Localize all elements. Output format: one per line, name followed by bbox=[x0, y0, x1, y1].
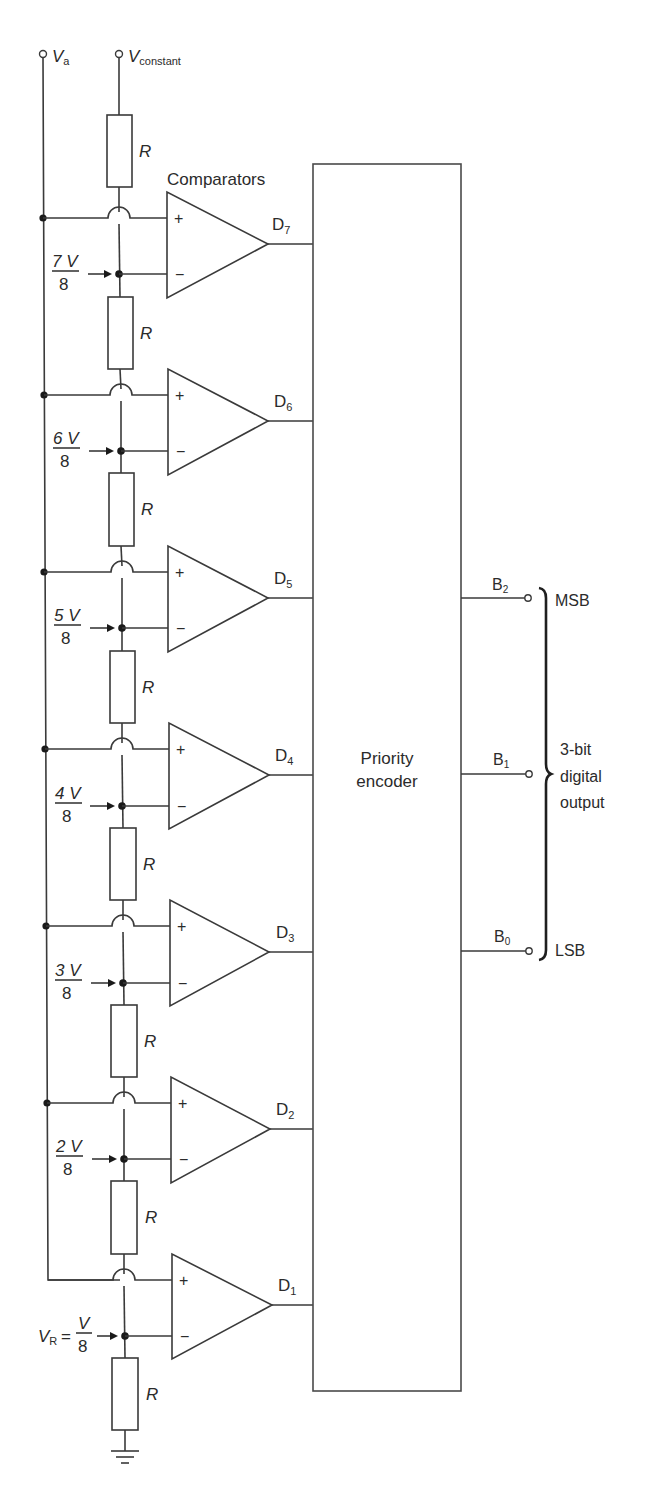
output-label-d3: D3 bbox=[276, 923, 294, 944]
svg-text:=: = bbox=[61, 1327, 71, 1346]
resistor-icon bbox=[110, 828, 136, 900]
output-b1: B1 bbox=[493, 751, 510, 770]
arrow-icon bbox=[110, 1332, 118, 1340]
svg-text:+: + bbox=[176, 741, 185, 758]
output-b2: B2 bbox=[492, 576, 509, 595]
svg-text:8: 8 bbox=[63, 1160, 72, 1179]
output-terminal-icon bbox=[526, 948, 532, 954]
resistor-ladder: R R R R R R R R bbox=[107, 115, 158, 1451]
output-label-d5: D5 bbox=[274, 569, 292, 590]
svg-text:output: output bbox=[560, 794, 605, 811]
arrow-icon bbox=[104, 270, 112, 278]
arrow-icon bbox=[106, 447, 114, 455]
resistor-label: R bbox=[142, 678, 154, 697]
arrow-icon bbox=[108, 979, 116, 987]
resistor-icon bbox=[109, 473, 134, 546]
svg-text:+: + bbox=[177, 918, 186, 935]
svg-text:−: − bbox=[175, 266, 184, 283]
svg-text:3-bit: 3-bit bbox=[560, 741, 592, 758]
va-label: Va bbox=[52, 47, 70, 67]
comparator-stage-d6: + − 6 V 8 D6 bbox=[40, 369, 313, 475]
comparator-stage-d7: + − 7 V 8 D7 bbox=[39, 192, 313, 298]
resistor-label: R bbox=[145, 1208, 157, 1227]
output-label-d6: D6 bbox=[274, 392, 292, 413]
vconstant-input: Vconstant bbox=[116, 47, 181, 115]
comparator-stage-d1: + − VR = V 8 D1 bbox=[38, 1254, 313, 1359]
arrow-icon bbox=[109, 1155, 117, 1163]
svg-text:7 V: 7 V bbox=[52, 252, 79, 271]
svg-text:8: 8 bbox=[62, 807, 71, 826]
resistor-icon bbox=[108, 297, 133, 369]
resistor-label: R bbox=[146, 1385, 158, 1404]
output-label-d2: D2 bbox=[276, 1100, 294, 1121]
resistor-icon bbox=[107, 115, 132, 187]
resistor-label: R bbox=[143, 855, 155, 874]
output-label-d7: D7 bbox=[272, 215, 290, 236]
svg-text:6 V: 6 V bbox=[53, 429, 80, 448]
svg-text:+: + bbox=[175, 564, 184, 581]
resistor-label: R bbox=[140, 324, 152, 343]
svg-text:8: 8 bbox=[60, 452, 69, 471]
svg-text:+: + bbox=[179, 1272, 188, 1289]
resistor-icon bbox=[110, 651, 135, 723]
va-terminal-icon bbox=[40, 51, 47, 58]
digital-outputs: B2 MSB B1 B0 LSB 3-bit digital output bbox=[461, 576, 605, 960]
output-b0: B0 bbox=[494, 928, 511, 947]
svg-text:2 V: 2 V bbox=[55, 1137, 83, 1156]
svg-text:Priority: Priority bbox=[361, 749, 414, 768]
brace-icon bbox=[539, 588, 551, 960]
svg-text:−: − bbox=[180, 1328, 189, 1345]
svg-text:VR: VR bbox=[38, 1327, 57, 1347]
comparator-stage-d3: + − 3 V 8 D3 bbox=[42, 900, 313, 1006]
va-input: Va bbox=[40, 47, 121, 1280]
arrow-icon bbox=[107, 624, 115, 632]
output-label-d1: D1 bbox=[278, 1276, 296, 1297]
svg-text:+: + bbox=[175, 387, 184, 404]
comparator-stage-d4: + − 4 V 8 D4 bbox=[41, 723, 313, 829]
svg-text:−: − bbox=[176, 620, 185, 637]
resistor-label: R bbox=[139, 142, 151, 161]
resistor-label: R bbox=[141, 500, 153, 519]
svg-text:8: 8 bbox=[62, 984, 71, 1003]
svg-text:−: − bbox=[178, 975, 187, 992]
comparators-label: Comparators bbox=[167, 170, 265, 189]
output-terminal-icon bbox=[526, 771, 532, 777]
lsb-label: LSB bbox=[555, 942, 585, 959]
svg-text:digital: digital bbox=[560, 768, 602, 785]
svg-text:8: 8 bbox=[78, 1337, 87, 1356]
svg-text:−: − bbox=[177, 798, 186, 815]
svg-text:encoder: encoder bbox=[356, 772, 418, 791]
svg-text:+: + bbox=[178, 1095, 187, 1112]
flash-adc-schematic: Va Vconstant Comparators R R R R R R R R bbox=[0, 0, 649, 1486]
arrow-icon bbox=[107, 802, 115, 810]
vconstant-label: Vconstant bbox=[128, 47, 181, 67]
vconstant-terminal-icon bbox=[116, 51, 123, 58]
output-terminal-icon bbox=[525, 595, 531, 601]
comparator-stage-d2: + − 2 V 8 D2 bbox=[43, 1077, 313, 1183]
output-label-d4: D4 bbox=[275, 746, 293, 767]
svg-text:4 V: 4 V bbox=[55, 784, 82, 803]
priority-encoder: Priority encoder bbox=[313, 164, 461, 1391]
msb-label: MSB bbox=[555, 592, 590, 609]
svg-text:8: 8 bbox=[61, 629, 70, 648]
resistor-icon bbox=[112, 1358, 138, 1430]
svg-text:8: 8 bbox=[59, 275, 68, 294]
svg-text:3 V: 3 V bbox=[55, 961, 82, 980]
resistor-icon bbox=[111, 1005, 137, 1077]
svg-text:+: + bbox=[174, 210, 183, 227]
ground-icon bbox=[111, 1451, 139, 1463]
resistor-label: R bbox=[144, 1032, 156, 1051]
comparator-stage-d5: + − 5 V 8 D5 bbox=[40, 546, 313, 652]
svg-text:−: − bbox=[179, 1151, 188, 1168]
svg-text:V: V bbox=[78, 1314, 91, 1333]
svg-text:5 V: 5 V bbox=[54, 606, 81, 625]
resistor-icon bbox=[111, 1181, 137, 1254]
svg-text:−: − bbox=[176, 443, 185, 460]
